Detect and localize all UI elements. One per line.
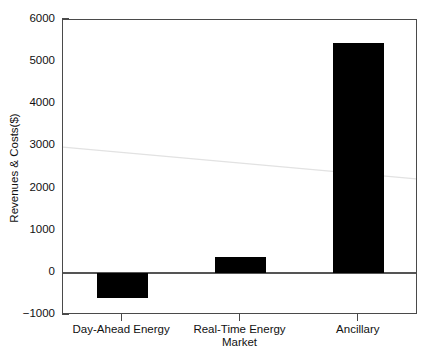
y-tick-label-text: 1000	[29, 224, 55, 236]
bar-0	[97, 273, 148, 298]
bar-chart-figure: Revenues & Costs($) −1000010002000300040…	[0, 0, 432, 346]
x-tick-label-2: Ancillary	[278, 323, 432, 336]
x-tick-1	[239, 314, 240, 321]
y-axis-title: Revenues & Costs($)	[8, 98, 20, 238]
y-tick-label-text: 6000	[29, 13, 55, 25]
y-tick-label-text: 2000	[29, 182, 55, 194]
y-tick-label-text: −1000	[23, 308, 55, 320]
x-tick-0	[121, 314, 122, 321]
x-tick-2	[357, 314, 358, 321]
y-tick-label-text: 4000	[29, 97, 55, 109]
y-tick-label-text: 3000	[29, 139, 55, 151]
y-tick-label-text: 0	[49, 266, 55, 278]
bar-2	[333, 43, 384, 273]
y-tick-label-text: 5000	[29, 55, 55, 67]
plot-frame	[62, 19, 417, 314]
x-axis-title: Market	[160, 336, 320, 346]
plot-area	[63, 20, 416, 313]
bar-1	[215, 257, 266, 273]
